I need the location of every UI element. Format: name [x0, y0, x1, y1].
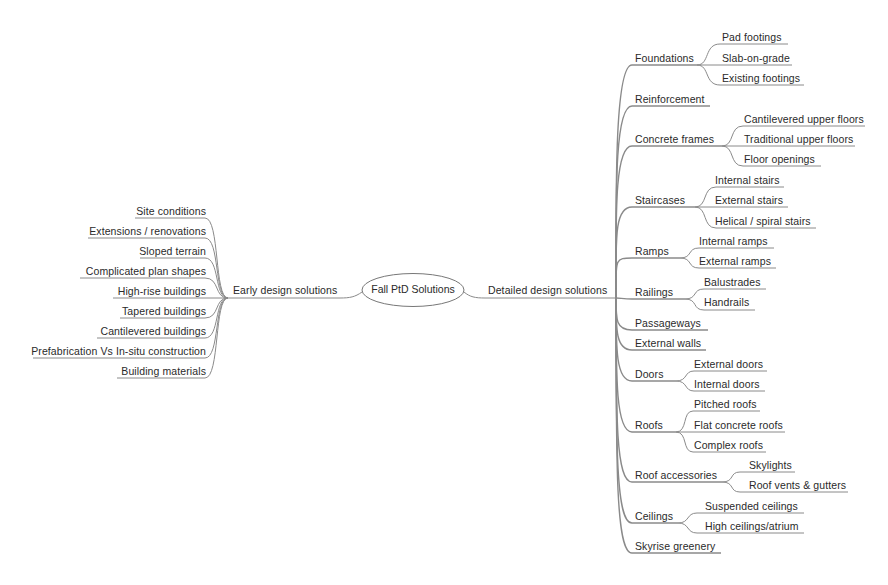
node-foundations[interactable]: Foundations [635, 52, 694, 64]
center-node[interactable]: Fall PtD Solutions [362, 273, 464, 306]
node-ramps[interactable]: Ramps [635, 245, 669, 257]
node-extensions-renovations[interactable]: Extensions / renovations [89, 225, 206, 237]
node-external-stairs[interactable]: External stairs [715, 194, 783, 206]
node-passageways[interactable]: Passageways [635, 317, 701, 329]
node-cantilevered-upper-floors[interactable]: Cantilevered upper floors [744, 113, 864, 125]
node-tapered-buildings[interactable]: Tapered buildings [122, 305, 206, 317]
node-external-doors[interactable]: External doors [694, 358, 763, 370]
node-high-rise-buildings[interactable]: High-rise buildings [118, 285, 206, 297]
mind-map-canvas: Fall PtD Solutions Early design solution… [0, 0, 888, 585]
node-helical-spiral-stairs[interactable]: Helical / spiral stairs [715, 215, 811, 227]
node-complicated-plan-shapes[interactable]: Complicated plan shapes [86, 265, 206, 277]
node-roof-accessories[interactable]: Roof accessories [635, 469, 717, 481]
node-pitched-roofs[interactable]: Pitched roofs [694, 398, 757, 410]
node-ceilings[interactable]: Ceilings [635, 510, 673, 522]
node-site-conditions[interactable]: Site conditions [136, 205, 206, 217]
node-existing-footings[interactable]: Existing footings [722, 72, 800, 84]
node-building-materials[interactable]: Building materials [121, 365, 206, 377]
node-pad-footings[interactable]: Pad footings [722, 31, 782, 43]
node-cantilevered-buildings[interactable]: Cantilevered buildings [100, 325, 206, 337]
node-internal-ramps[interactable]: Internal ramps [699, 235, 768, 247]
node-slab-on-grade[interactable]: Slab-on-grade [722, 52, 790, 64]
node-external-walls[interactable]: External walls [635, 337, 701, 349]
node-roofs[interactable]: Roofs [635, 419, 663, 431]
node-external-ramps[interactable]: External ramps [699, 255, 771, 267]
node-traditional-upper-floors[interactable]: Traditional upper floors [744, 133, 853, 145]
node-high-ceilings-atrium[interactable]: High ceilings/atrium [705, 520, 799, 532]
node-prefabrication-vs-insitu[interactable]: Prefabrication Vs In-situ construction [31, 345, 206, 357]
node-complex-roofs[interactable]: Complex roofs [694, 439, 763, 451]
node-sloped-terrain[interactable]: Sloped terrain [139, 245, 206, 257]
node-doors[interactable]: Doors [635, 368, 664, 380]
node-roof-vents-gutters[interactable]: Roof vents & gutters [749, 479, 846, 491]
node-handrails[interactable]: Handrails [704, 296, 749, 308]
node-skyrise-greenery[interactable]: Skyrise greenery [635, 540, 715, 552]
node-balustrades[interactable]: Balustrades [704, 276, 761, 288]
node-internal-stairs[interactable]: Internal stairs [715, 174, 780, 186]
node-concrete-frames[interactable]: Concrete frames [635, 133, 714, 145]
node-railings[interactable]: Railings [635, 286, 673, 298]
node-staircases[interactable]: Staircases [635, 194, 685, 206]
node-floor-openings[interactable]: Floor openings [744, 153, 815, 165]
node-suspended-ceilings[interactable]: Suspended ceilings [705, 500, 798, 512]
node-reinforcement[interactable]: Reinforcement [635, 93, 705, 105]
node-skylights[interactable]: Skylights [749, 459, 792, 471]
branch-early-design[interactable]: Early design solutions [233, 284, 337, 296]
node-internal-doors[interactable]: Internal doors [694, 378, 760, 390]
node-flat-concrete-roofs[interactable]: Flat concrete roofs [694, 419, 783, 431]
branch-detailed-design[interactable]: Detailed design solutions [488, 284, 607, 296]
